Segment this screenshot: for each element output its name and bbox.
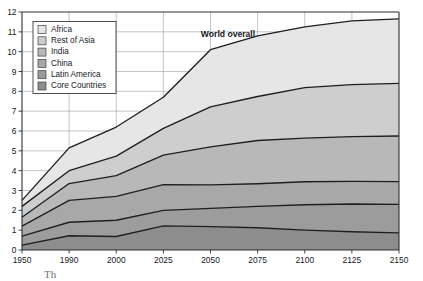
chart-figure: 0123456789101112 19501990200020252050207…	[0, 0, 423, 281]
world-overall-annotation: World overall	[201, 29, 255, 39]
y-tick-label: 12	[7, 7, 17, 17]
legend-item-label: China	[51, 59, 73, 68]
legend-item-label: Core Countries	[51, 81, 106, 90]
legend-item-label: Latin America	[51, 70, 101, 79]
legend-swatch	[38, 71, 46, 79]
figure-caption: Th	[44, 268, 57, 280]
x-axis-ticks: 195019902000202520502075210021252150	[13, 250, 409, 265]
y-axis-ticks: 0123456789101112	[7, 7, 22, 255]
legend-swatch	[38, 48, 46, 56]
x-tick-label: 2075	[248, 255, 267, 265]
x-tick-label: 2025	[154, 255, 173, 265]
y-tick-label: 10	[7, 47, 17, 57]
y-tick-label: 8	[12, 86, 17, 96]
x-tick-label: 1990	[60, 255, 79, 265]
legend-item-label: Rest of Asia	[51, 36, 95, 45]
legend-swatch	[38, 82, 46, 90]
y-tick-label: 6	[12, 126, 17, 136]
y-tick-label: 11	[8, 27, 17, 37]
population-projection-chart: 0123456789101112 19501990200020252050207…	[0, 0, 423, 281]
y-tick-label: 2	[12, 205, 17, 215]
y-tick-label: 1	[12, 225, 17, 235]
legend-swatch	[38, 37, 46, 45]
legend-item-label: India	[51, 47, 69, 56]
y-tick-label: 9	[12, 67, 17, 77]
legend-item-label: Africa	[51, 25, 72, 34]
x-tick-label: 2150	[390, 255, 409, 265]
x-tick-label: 1950	[13, 255, 32, 265]
y-tick-label: 4	[12, 166, 17, 176]
legend-swatch	[38, 26, 46, 34]
legend-swatch	[38, 59, 46, 67]
y-tick-label: 5	[12, 146, 17, 156]
x-tick-label: 2125	[343, 255, 362, 265]
y-tick-label: 0	[12, 245, 17, 255]
y-tick-label: 3	[12, 186, 17, 196]
x-tick-label: 2100	[295, 255, 314, 265]
legend: AfricaRest of AsiaIndiaChinaLatin Americ…	[33, 22, 116, 94]
x-tick-label: 2050	[201, 255, 220, 265]
x-tick-label: 2000	[107, 255, 126, 265]
y-tick-label: 7	[12, 106, 17, 116]
